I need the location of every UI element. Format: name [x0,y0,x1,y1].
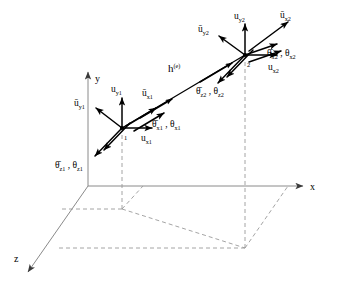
thetaz1-sub: z1 [77,165,83,172]
uy1-bar-sub: y1 [79,103,85,110]
thetax2-comma: , [278,48,285,58]
svg-text:ūy2: ūy2 [198,24,209,36]
svg-text:uy1: uy1 [111,84,122,96]
label-ux2-bar: ūx2 [280,10,291,22]
svg-text:θ̄x2 , θx2: θ̄x2 , θx2 [267,48,296,60]
thetaz1-comma: , [65,160,72,170]
node-1-number: 1 [124,134,127,141]
node1-base-to-x [122,186,143,209]
diagram-canvas: 1 2 x y z h(e) ūy1 uy1 [0,0,340,288]
svg-text:θ̄z1 , θz1: θ̄z1 , θz1 [55,160,83,172]
svg-text:h(e): h(e) [168,62,180,74]
thetax1-sub: x1 [174,124,180,131]
svg-text:ūx2: ūx2 [280,10,291,22]
node2-base-to-x [245,186,288,248]
svg-text:θ̄z2 , θz2: θ̄z2 , θz2 [196,86,224,98]
base-diagonal-1 [122,209,245,248]
node1-thetaz-double-arrow-1 [95,128,122,156]
node2-uy-bar-arrow [219,36,245,55]
svg-text:ux1: ux1 [141,133,152,145]
label-ux2: ux2 [268,62,279,74]
label-uy1: uy1 [111,84,122,96]
uy2-bar-sub: y2 [203,29,209,36]
element-length-label: h(e) [168,62,180,74]
label-uy1-bar: ūy1 [74,98,85,110]
uy1-sub: y1 [116,89,122,96]
svg-text:uy2: uy2 [234,11,245,23]
x-axis-label: x [310,181,315,192]
y-axis-label: y [95,73,100,84]
ux2-bar-sub: x2 [285,15,291,22]
node-2-number: 2 [247,61,250,68]
thetaz2-sub: z2 [218,91,224,98]
ux1-bar-arrow [140,99,172,118]
label-thetaz1-pair: θ̄z1 , θz1 [55,160,83,172]
thetax2-sub: x2 [289,53,295,60]
label-thetaz2-pair: θ̄z2 , θz2 [196,86,224,98]
label-uy2-bar: ūy2 [198,24,209,36]
ux1-bar-sub: x1 [147,93,153,100]
node1-labels: ūy1 uy1 ūx1 ux1 [55,84,181,172]
label-uy2: uy2 [234,11,245,23]
thetax1-comma: , [163,119,170,129]
ux2-sub: x2 [273,67,279,74]
projection-lines [58,55,288,248]
node1-uy-bar-arrow [96,108,122,128]
svg-text:θ̄x1 , θx1: θ̄x1 , θx1 [152,119,181,131]
svg-text:ux2: ux2 [268,62,279,74]
beam-element-diagram: 1 2 x y z h(e) ūy1 uy1 [0,0,340,288]
h-superscript: (e) [174,62,181,70]
z-axis-line [28,186,88,272]
label-ux1-bar: ūx1 [142,88,153,100]
thetaz2-comma: , [206,86,213,96]
uy2-sub: y2 [239,16,245,23]
label-thetax2-pair: θ̄x2 , θx2 [267,48,296,60]
z-axis-label: z [14,253,19,264]
label-thetax1-pair: θ̄x1 , θx1 [152,119,181,131]
svg-text:ūx1: ūx1 [142,88,153,100]
svg-text:ūy1: ūy1 [74,98,85,110]
label-ux1: ux1 [141,133,152,145]
ux1-sub: x1 [146,138,152,145]
